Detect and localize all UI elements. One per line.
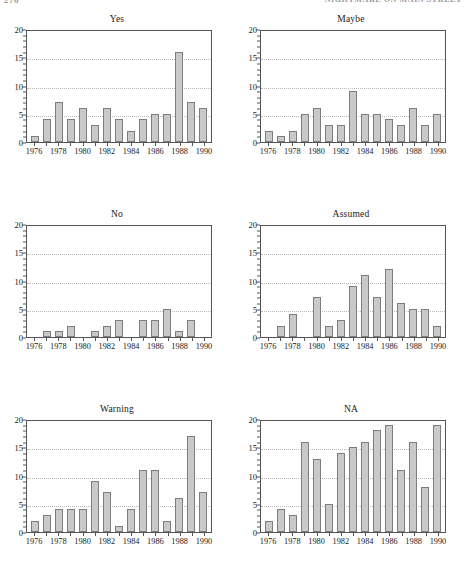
x-axis-tick [426, 533, 427, 536]
x-axis-tick [192, 533, 193, 536]
x-axis-tick [292, 143, 293, 146]
x-axis-tick-label: 1984 [357, 147, 374, 156]
bar-slot [275, 421, 287, 532]
x-axis-tick [414, 338, 415, 341]
x-axis-labels: 19761978198019821984198619881990 [26, 147, 212, 159]
x-axis-tick [204, 143, 205, 146]
bar [115, 119, 122, 142]
x-axis-tick [389, 533, 390, 536]
bar-slot [287, 421, 299, 532]
x-axis-tick-label: 1990 [196, 147, 213, 156]
chart-panel: Yes0510152019761978198019821984198619881… [0, 10, 234, 205]
panel-title: Warning [0, 404, 234, 414]
bar-slot [137, 421, 149, 532]
x-axis-tick [70, 533, 71, 536]
bar [397, 303, 404, 337]
bar [277, 326, 284, 337]
bar-slot [197, 421, 209, 532]
x-axis-tick [119, 533, 120, 536]
x-axis-tick-label: 1976 [26, 537, 43, 546]
bar-slot [197, 31, 209, 142]
bar-slot [53, 31, 65, 142]
panel-title: Yes [0, 14, 234, 24]
bar-slot [89, 31, 101, 142]
bar-slot [263, 421, 275, 532]
x-axis-tick [402, 338, 403, 341]
running-head-title: NIGHTMARE ON MAIN STREET [325, 0, 462, 4]
x-axis-tick [292, 533, 293, 536]
bar [373, 297, 380, 337]
x-axis-tick [317, 143, 318, 146]
bar-slot [77, 421, 89, 532]
x-axis-tick-label: 1978 [284, 537, 301, 546]
bar-slot [161, 421, 173, 532]
x-axis-tick-label: 1978 [284, 342, 301, 351]
x-axis-tick [341, 533, 342, 536]
bar [373, 114, 380, 142]
x-axis-tick-label: 1988 [171, 147, 188, 156]
chart-panel: No05101520197619781980198219841986198819… [0, 205, 234, 400]
bar [301, 114, 308, 142]
bar [175, 331, 182, 337]
x-axis-tick [329, 533, 330, 536]
x-axis-labels: 19761978198019821984198619881990 [26, 342, 212, 354]
bar-slot [419, 31, 431, 142]
plot-area [26, 225, 212, 338]
bar [385, 269, 392, 337]
x-axis-tick [414, 143, 415, 146]
x-axis-tick [83, 143, 84, 146]
x-axis-tick [155, 143, 156, 146]
x-axis-tick [280, 533, 281, 536]
x-axis-tick-label: 1980 [308, 147, 325, 156]
bar [139, 320, 146, 337]
bar-slot [395, 226, 407, 337]
y-axis-labels: 05101520 [0, 30, 23, 143]
x-axis-tick [83, 338, 84, 341]
bar-slot [185, 421, 197, 532]
y-axis-labels: 05101520 [234, 30, 257, 143]
bar-slot [65, 421, 77, 532]
bar-slot [77, 31, 89, 142]
x-axis-labels: 19761978198019821984198619881990 [260, 147, 446, 159]
x-axis-tick [143, 533, 144, 536]
bar-slot [371, 421, 383, 532]
bar [91, 481, 98, 532]
x-axis-tick [438, 338, 439, 341]
bar [55, 102, 62, 142]
bar-slot [53, 226, 65, 337]
bar-slot [263, 31, 275, 142]
bar-slot [125, 31, 137, 142]
x-axis-tick [280, 143, 281, 146]
bar [289, 314, 296, 337]
x-axis-tick-label: 1990 [196, 537, 213, 546]
bar-slot [299, 226, 311, 337]
chart-panel: NA05101520197619781980198219841986198819… [234, 400, 468, 587]
x-axis-tick [46, 533, 47, 536]
x-axis-tick [58, 338, 59, 341]
bar-slot [113, 31, 125, 142]
bar [301, 442, 308, 532]
bar [31, 136, 38, 142]
bar-slot [149, 421, 161, 532]
bar-slot [29, 226, 41, 337]
bar [103, 326, 110, 337]
page-folio: 276 [4, 0, 19, 5]
bar-slot [137, 226, 149, 337]
bar-series [261, 31, 445, 142]
bar [31, 521, 38, 532]
bar [139, 470, 146, 532]
x-axis-tick [204, 533, 205, 536]
x-axis-tick [70, 143, 71, 146]
x-axis-tick-label: 1986 [381, 342, 398, 351]
x-axis-tick-label: 1976 [260, 537, 277, 546]
x-axis-tick-label: 1982 [333, 537, 350, 546]
x-axis-tick [389, 338, 390, 341]
bar-slot [371, 226, 383, 337]
bar [187, 102, 194, 142]
x-axis-tick-label: 1980 [74, 342, 91, 351]
x-axis-tick [155, 533, 156, 536]
y-axis-labels: 05101520 [0, 225, 23, 338]
x-axis-tick-label: 1984 [123, 147, 140, 156]
x-axis-tick [329, 338, 330, 341]
x-axis-tick-label: 1984 [357, 342, 374, 351]
